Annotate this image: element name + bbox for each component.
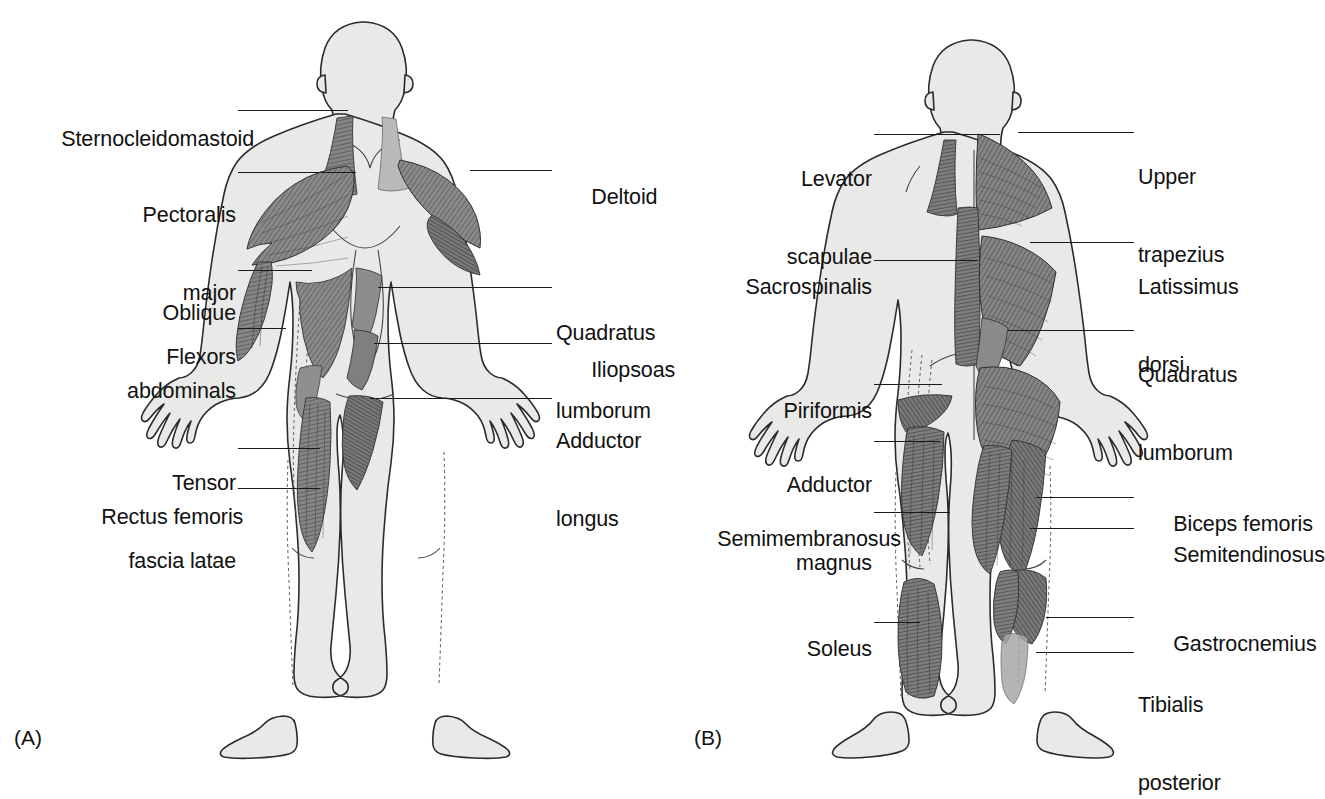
leader-adductor-longus bbox=[370, 398, 552, 399]
leader-gastrocnemius bbox=[1046, 617, 1134, 618]
muscle-tibialis-posterior bbox=[1001, 634, 1028, 705]
leader-sacrospinalis bbox=[874, 260, 978, 261]
label-soleus-line1: Soleus bbox=[807, 637, 872, 661]
leader-quadratus-lumborum-posterior bbox=[1008, 330, 1134, 331]
label-semitendinosus: Semitendinosus bbox=[1138, 516, 1298, 594]
label-flexors: Flexors bbox=[116, 318, 236, 396]
leader-piriformis bbox=[874, 384, 942, 385]
label-flexors-line1: Flexors bbox=[166, 345, 236, 369]
label-pectoralis-major-line1: Pectoralis bbox=[76, 202, 236, 228]
label-semitendinosus-line1: Semitendinosus bbox=[1173, 543, 1325, 567]
label-sternocleidomastoid-line1: Sternocleidomastoid bbox=[61, 127, 254, 151]
label-upper-trapezius-line1: Upper bbox=[1138, 164, 1288, 190]
label-levator-scapulae-line1: Levator bbox=[708, 166, 872, 192]
leader-rectus-femoris bbox=[238, 488, 320, 489]
leader-upper-trapezius bbox=[1018, 132, 1134, 133]
label-semimembranosus-line1: Semimembranosus bbox=[717, 527, 901, 551]
leader-semimembranosus bbox=[874, 512, 950, 513]
label-adductor-magnus-line1: Adductor bbox=[718, 472, 872, 498]
muscle-gastrocnemius-medial bbox=[993, 570, 1018, 644]
label-tibialis-posterior: Tibialis posterior bbox=[1138, 640, 1288, 799]
label-adductor-longus-line1: Adductor bbox=[556, 428, 690, 454]
label-tibialis-posterior-line2: posterior bbox=[1138, 770, 1288, 796]
leader-pectoralis-major bbox=[238, 172, 356, 173]
muscle-soleus bbox=[898, 578, 942, 698]
leader-adductor-magnus bbox=[874, 441, 940, 442]
caption-panel-a: (A) bbox=[14, 726, 42, 750]
label-deltoid: Deltoid bbox=[556, 158, 686, 236]
label-sacrospinalis: Sacrospinalis bbox=[700, 248, 872, 326]
leader-latissimus-dorsi bbox=[1030, 242, 1134, 243]
label-soleus: Soleus bbox=[742, 610, 872, 688]
leader-biceps-femoris bbox=[1036, 497, 1134, 498]
label-quadratus-lumborum-posterior-line1: Quadratus bbox=[1138, 362, 1290, 388]
caption-panel-b: (B) bbox=[694, 726, 722, 750]
label-tibialis-posterior-line1: Tibialis bbox=[1138, 692, 1288, 718]
label-latissimus-dorsi-line1: Latissimus bbox=[1138, 274, 1290, 300]
leader-flexors bbox=[238, 328, 286, 329]
leader-tibialis-posterior bbox=[1036, 652, 1134, 653]
leader-semitendinosus bbox=[1030, 528, 1134, 529]
leader-soleus bbox=[874, 622, 920, 623]
leader-iliopsoas bbox=[374, 343, 552, 344]
label-quadratus-lumborum-posterior-line2: lumborum bbox=[1138, 440, 1290, 466]
label-adductor-longus: Adductor longus bbox=[556, 376, 690, 584]
leader-levator-scapulae bbox=[874, 134, 1000, 135]
leader-oblique-abdominals bbox=[238, 270, 312, 271]
panel-posterior: Levator scapulae Sacrospinalis Piriformi… bbox=[690, 0, 1295, 774]
label-deltoid-line1: Deltoid bbox=[591, 185, 657, 209]
label-rectus-femoris-line1: Rectus femoris bbox=[101, 505, 243, 529]
panel-anterior: Sternocleidomastoid Pectoralis major Obl… bbox=[0, 0, 690, 774]
leader-quadratus-lumborum bbox=[378, 287, 552, 288]
muscle-sacrospinalis bbox=[955, 207, 980, 366]
label-semimembranosus: Semimembranosus bbox=[682, 500, 872, 578]
label-rectus-femoris: Rectus femoris bbox=[66, 478, 236, 556]
label-sacrospinalis-line1: Sacrospinalis bbox=[745, 275, 872, 299]
leader-deltoid bbox=[470, 170, 552, 171]
leader-sternocleidomastoid bbox=[238, 110, 348, 111]
label-adductor-longus-line2: longus bbox=[556, 506, 690, 532]
leader-tensor-fascia-latae bbox=[238, 448, 320, 449]
